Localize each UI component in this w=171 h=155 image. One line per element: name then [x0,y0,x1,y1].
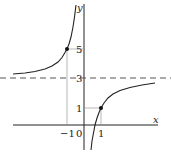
x-axis-label: x [153,114,159,125]
tick-x0: 0 [76,128,82,139]
hyperbola-graph: 5 3 1 −1 0 1 x y [0,0,171,155]
curve-right-branch [91,83,155,150]
point-1-1 [99,106,103,110]
tick-x-neg1: −1 [60,128,75,139]
tick-y3: 3 [76,73,82,84]
tick-x1: 1 [98,128,104,139]
tick-y5: 5 [76,44,82,55]
tick-y1: 1 [76,103,82,114]
curve-left-branch [13,5,76,74]
point-neg1-5 [65,47,69,51]
y-axis-label: y [76,2,83,13]
